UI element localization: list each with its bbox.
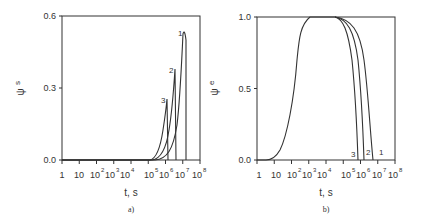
svg-text:e: e — [207, 80, 216, 85]
xticks-a: 1 10 102 103 104 105 106 107 108 — [59, 167, 207, 180]
svg-text:10: 10 — [90, 170, 100, 180]
svg-text:10: 10 — [192, 170, 202, 180]
curves-a — [62, 32, 186, 160]
curves-b — [257, 17, 373, 160]
svg-text:4: 4 — [328, 167, 332, 173]
ylabel-b: ψ e — [207, 80, 220, 96]
curve-label-a-3: 3 — [161, 96, 166, 105]
svg-text:10: 10 — [175, 170, 185, 180]
curve-label-b-2: 2 — [366, 148, 371, 157]
ytick-a-0.0: 0.0 — [43, 155, 56, 165]
svg-text:s: s — [13, 81, 22, 85]
svg-text:7: 7 — [186, 167, 190, 173]
svg-text:10: 10 — [287, 170, 297, 180]
svg-text:1: 1 — [256, 170, 261, 180]
svg-text:1: 1 — [59, 170, 64, 180]
svg-text:10: 10 — [159, 170, 169, 180]
ytick-b-1.0: 1.0 — [238, 12, 251, 22]
curve-label-a-2: 2 — [169, 66, 174, 75]
curve-label-a-1: 1 — [178, 29, 183, 38]
svg-text:6: 6 — [367, 167, 371, 173]
xlabel-b: t, s — [319, 187, 332, 198]
svg-text:4: 4 — [131, 167, 135, 173]
caption-b: b) — [323, 205, 330, 214]
svg-text:ψ: ψ — [209, 88, 220, 95]
svg-text:ψ: ψ — [15, 88, 26, 95]
panel-a: 0.6 0.3 0.0 ψ s 1 10 102 103 104 105 106 — [13, 11, 207, 214]
ytick-a-0.3: 0.3 — [43, 83, 56, 93]
xticks-b: 1 10 102 103 104 105 106 107 108 — [256, 167, 403, 180]
svg-text:10: 10 — [271, 170, 281, 180]
svg-text:7: 7 — [383, 167, 387, 173]
svg-text:10: 10 — [388, 170, 398, 180]
svg-text:10: 10 — [120, 170, 130, 180]
curve-label-b-3: 3 — [351, 150, 356, 159]
ytick-a-0.6: 0.6 — [43, 11, 56, 21]
plot-frame-b — [257, 17, 395, 160]
svg-text:8: 8 — [203, 167, 207, 173]
svg-text:10: 10 — [74, 170, 84, 180]
figure: 0.6 0.3 0.0 ψ s 1 10 102 103 104 105 106 — [0, 0, 426, 224]
ylabel-a: ψ s — [13, 81, 26, 96]
svg-text:8: 8 — [399, 167, 403, 173]
ytick-b-0.0: 0.0 — [238, 155, 251, 165]
svg-text:10: 10 — [372, 170, 382, 180]
caption-a: a) — [128, 205, 135, 214]
panel-b: 1.0 0.5 0.0 ψ e 1 10 102 103 104 105 106… — [207, 12, 403, 214]
svg-text:10: 10 — [105, 170, 115, 180]
svg-text:10: 10 — [317, 170, 327, 180]
curve-label-b-1: 1 — [379, 148, 384, 157]
svg-text:10: 10 — [144, 170, 154, 180]
xlabel-a: t, s — [124, 187, 137, 198]
svg-text:10: 10 — [356, 170, 366, 180]
svg-text:6: 6 — [170, 167, 174, 173]
ytick-b-0.5: 0.5 — [238, 84, 251, 94]
svg-text:10: 10 — [302, 170, 312, 180]
svg-text:10: 10 — [341, 170, 351, 180]
